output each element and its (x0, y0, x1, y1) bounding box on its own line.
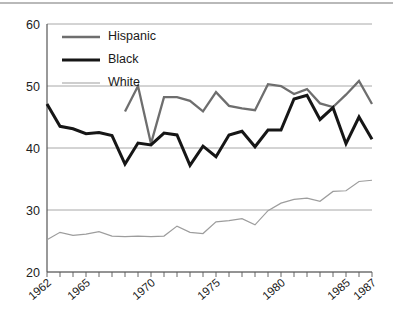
y-tick-label-60: 60 (26, 18, 40, 32)
y-tick-label-30: 30 (26, 204, 40, 218)
x-axis-tick-labels: 1962196519701975198019851987 (26, 276, 378, 302)
legend-label-black: Black (108, 52, 139, 66)
line-chart: 2030405060 1962196519701975198019851987 … (0, 0, 393, 326)
x-tick-label-1962: 1962 (26, 276, 53, 302)
y-tick-label-20: 20 (26, 266, 40, 280)
x-tick-label-1987: 1987 (351, 276, 378, 302)
x-tick-label-1965: 1965 (65, 276, 92, 302)
chart-legend: HispanicBlackWhite (62, 29, 156, 89)
x-tick-label-1975: 1975 (195, 276, 222, 302)
chart-container: 2030405060 1962196519701975198019851987 … (0, 0, 393, 326)
x-tick-label-1980: 1980 (260, 276, 287, 302)
y-tick-label-40: 40 (26, 142, 40, 156)
data-series-group (47, 81, 372, 240)
legend-label-hispanic: Hispanic (108, 29, 156, 43)
y-tick-label-50: 50 (26, 80, 40, 94)
y-axis-tick-labels: 2030405060 (26, 18, 40, 280)
x-axis-tick-marks (47, 272, 372, 277)
legend-label-white: White (108, 75, 140, 89)
x-tick-label-1985: 1985 (325, 276, 352, 302)
x-tick-label-1970: 1970 (130, 276, 157, 302)
series-line-black (47, 95, 372, 165)
